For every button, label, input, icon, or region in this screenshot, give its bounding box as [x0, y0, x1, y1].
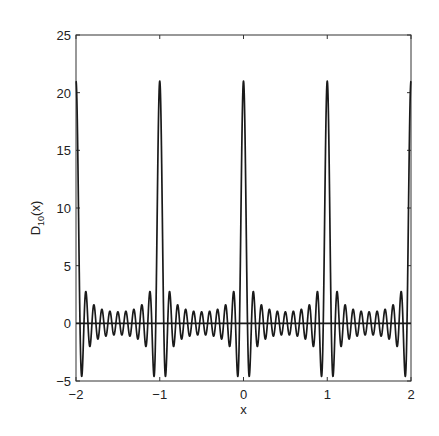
chart-svg: −50510152025 −2−1012 x D10(x) [0, 0, 439, 436]
y-tick-label: 20 [57, 86, 71, 101]
x-axis-tick-labels: −2−1012 [69, 387, 415, 402]
y-axis-label-suffix: (x) [28, 201, 43, 216]
plot-area [76, 35, 411, 381]
chart-figure: −50510152025 −2−1012 x D10(x) [0, 0, 439, 436]
x-tick-label: 2 [407, 387, 414, 402]
x-tick-label: 1 [324, 387, 331, 402]
series-line-d10 [76, 81, 411, 376]
y-axis-label-base: D [28, 226, 43, 235]
y-axis-tick-labels: −50510152025 [56, 28, 71, 389]
y-axis-label: D10(x) [28, 201, 46, 236]
x-tick-label: −1 [152, 387, 167, 402]
y-tick-label: 5 [64, 259, 71, 274]
y-tick-label: 25 [57, 28, 71, 43]
x-axis-label: x [240, 402, 247, 417]
y-tick-label: 15 [57, 143, 71, 158]
x-tick-label: 0 [240, 387, 247, 402]
y-tick-label: 10 [57, 201, 71, 216]
x-tick-label: −2 [69, 387, 84, 402]
y-tick-label: 0 [64, 316, 71, 331]
y-axis-label-subscript: 10 [36, 216, 46, 226]
